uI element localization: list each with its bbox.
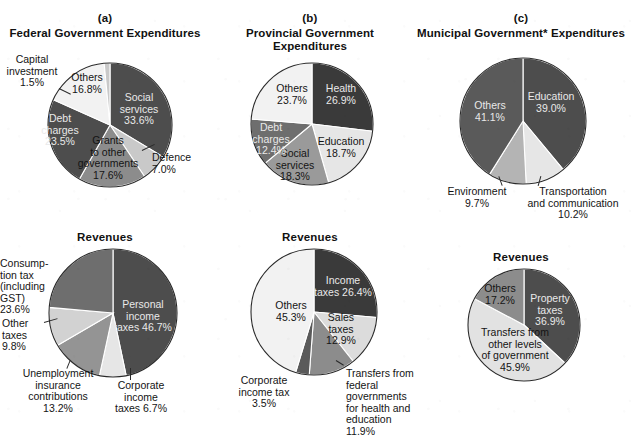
- leader-line-corporate-income-taxes: [130, 368, 131, 380]
- slice-label-personal-income-taxes: Personal income taxes 46.7%: [110, 299, 176, 334]
- panel-provincial-expenditures: (b) Provincial Government Expenditures H…: [210, 0, 410, 216]
- slice-label-transfers-federal: Transfers from federal governments for h…: [346, 368, 438, 438]
- revenues-title-c: Revenues: [410, 251, 632, 263]
- slice-label-other-taxes: Other taxes 9.8%: [2, 318, 48, 353]
- pie-slice: [49, 249, 113, 313]
- panel-letter-c: (c): [410, 12, 632, 24]
- slice-label-others-prov-rev: Others 45.3%: [264, 300, 318, 323]
- slice-label-others-prov: Others 23.7%: [266, 83, 318, 106]
- slice-label-transportation: Transportation and communication 10.2%: [518, 186, 628, 221]
- panel-municipal-expenditures: (c) Municipal Government* Expenditures E…: [410, 0, 632, 216]
- slice-label-debt-charges-prov: Debt charges 12.4%: [246, 122, 296, 157]
- slice-label-ui-contributions: Unemployment insurance contributions 13.…: [10, 368, 106, 414]
- slice-label-education: Education 18.7%: [312, 136, 370, 159]
- panel-title-c: Municipal Government* Expenditures: [410, 27, 632, 40]
- panel-title-a: Federal Government Expenditures: [0, 27, 210, 40]
- panel-federal-expenditures: (a) Federal Government Expenditures Soci…: [0, 0, 210, 216]
- slice-label-sales-taxes: Sales taxes 12.9%: [319, 312, 363, 347]
- panel-title-b: Provincial Government Expenditures: [210, 27, 410, 53]
- slice-label-income-taxes: Income taxes 26.4%: [310, 275, 376, 298]
- slice-label-debt-charges: Debt charges 23.5%: [32, 113, 88, 148]
- slice-label-others-mun-rev: Others 17.2%: [476, 283, 524, 306]
- slice-label-health: Health 26.9%: [314, 83, 368, 106]
- panel-letter-b: (b): [210, 12, 410, 24]
- slice-label-education-mun: Education 39.0%: [523, 91, 579, 114]
- revenues-title-a: Revenues: [0, 231, 210, 243]
- slice-label-transfers-other-levels: Transfers from other levels of governmen…: [472, 327, 558, 373]
- panel-letter-a: (a): [0, 12, 210, 24]
- revenues-title-b: Revenues: [210, 231, 410, 243]
- slice-label-property-taxes: Property taxes 36.9%: [522, 293, 578, 328]
- slice-label-defence: Defence 7.0%: [152, 152, 210, 175]
- slice-label-social-services: Social services 33.6%: [108, 92, 170, 127]
- slice-label-corporate-income-taxes: Corporate income taxes 6.7%: [110, 380, 172, 415]
- slice-label-corporate-income-tax-prov: Corporate income tax 3.5%: [230, 375, 298, 410]
- slice-label-capital-investment: Capital investment 1.5%: [0, 54, 64, 89]
- slice-label-others-mun: Others 41.1%: [464, 100, 516, 123]
- slice-label-environment: Environment 9.7%: [440, 186, 514, 209]
- slice-label-consumption-tax: Consump- tion tax (including GST) 23.6%: [0, 258, 56, 316]
